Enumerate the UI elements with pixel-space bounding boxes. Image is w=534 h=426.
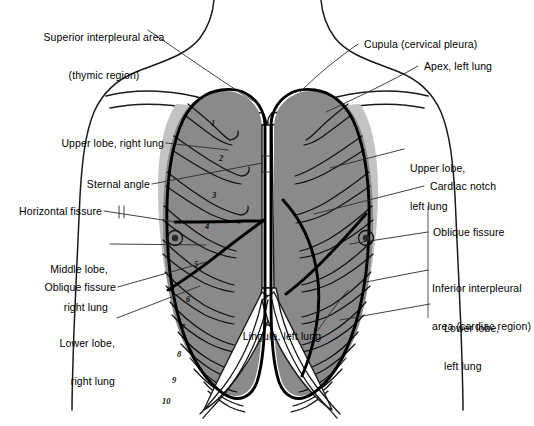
label-lower-lobe-right-lung: Lower lobe, right lung xyxy=(0,312,115,412)
label-superior-interpleural-line1: Superior interpleural area xyxy=(14,31,194,44)
rib-number-9: 9 xyxy=(172,375,176,385)
label-upper-lobe-right-lung: Upper lobe, right lung xyxy=(0,137,164,150)
rib-number-1: 1 xyxy=(211,118,215,128)
rib-number-10: 10 xyxy=(162,396,171,406)
label-lower-lobe-left-line2: left lung xyxy=(444,360,499,373)
label-lower-lobe-left-line1: Lower lobe, xyxy=(444,322,499,335)
label-superior-interpleural-line2: (thymic region) xyxy=(14,69,194,82)
label-sternal-angle: Sternal angle xyxy=(0,178,150,191)
label-lingula-left-lung: Lingula, left lung xyxy=(227,330,337,343)
rib-number-6: 6 xyxy=(186,294,190,304)
label-upper-lobe-left-line2: left lung xyxy=(410,200,465,213)
lung-surface-projection-figure: Superior interpleural area (thymic regio… xyxy=(0,0,534,426)
rib-number-3: 3 xyxy=(212,190,216,200)
horizontal-fissure-line xyxy=(175,221,264,222)
label-horizontal-fissure: Horizontal fissure xyxy=(0,205,102,218)
label-cupula: Cupula (cervical pleura) xyxy=(364,38,477,51)
rib-number-8: 8 xyxy=(177,349,181,359)
leader-inferior-interpleural xyxy=(366,270,428,282)
label-lower-lobe-right-line2: right lung xyxy=(0,375,115,388)
label-lower-lobe-left-lung: Lower lobe, left lung xyxy=(444,297,499,397)
label-apex-left-lung: Apex, left lung xyxy=(424,60,492,73)
label-oblique-fissure-right-lung: Oblique fissure xyxy=(0,281,116,294)
label-cardiac-notch: Cardiac notch xyxy=(430,180,496,193)
rib-number-7: 7 xyxy=(181,322,185,332)
label-lower-lobe-right-line1: Lower lobe, xyxy=(0,337,115,350)
label-oblique-fissure-left-lung: Oblique fissure xyxy=(433,226,505,239)
rib-number-2: 2 xyxy=(219,153,223,163)
label-inferior-interpleural-line1: Inferior interpleural xyxy=(432,282,534,295)
horizontal-fissure-tick xyxy=(119,206,124,218)
label-middle-lobe-right-line1: Middle lobe, xyxy=(0,263,108,276)
label-superior-interpleural-area: Superior interpleural area (thymic regio… xyxy=(14,6,194,106)
label-upper-lobe-left-line1: Upper lobe, xyxy=(410,162,465,175)
rib-number-5: 5 xyxy=(194,259,198,269)
rib-number-4: 4 xyxy=(205,221,209,231)
